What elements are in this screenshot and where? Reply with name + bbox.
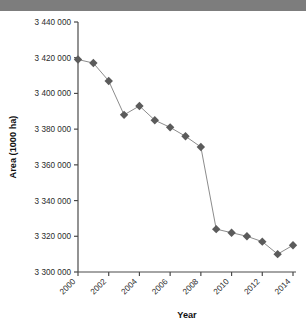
y-tick-label: 3 340 000	[35, 197, 72, 206]
data-point-marker	[212, 225, 220, 233]
y-axis-tick-group: 3 300 0003 320 0003 340 0003 360 0003 38…	[35, 18, 78, 277]
data-point-marker	[197, 143, 205, 151]
x-tick-label: 2006	[150, 277, 170, 297]
data-point-marker	[74, 55, 82, 63]
y-tick-label: 3 300 000	[35, 268, 72, 277]
x-tick-label: 2002	[89, 277, 109, 297]
y-tick-label: 3 400 000	[35, 89, 72, 98]
data-point-marker	[243, 232, 251, 240]
data-point-marker	[166, 123, 174, 131]
x-tick-label: 2008	[181, 277, 201, 297]
y-tick-label: 3 440 000	[35, 18, 72, 27]
y-tick-label: 3 360 000	[35, 161, 72, 170]
x-tick-label: 2014	[273, 277, 293, 297]
series-markers-area	[74, 55, 297, 258]
x-tick-label: 2000	[58, 277, 78, 297]
data-point-marker	[227, 229, 235, 237]
x-tick-label: 2012	[242, 277, 262, 297]
data-point-marker	[181, 132, 189, 140]
x-tick-label: 2010	[212, 277, 232, 297]
y-tick-label: 3 380 000	[35, 125, 72, 134]
line-chart-svg: 3 300 0003 320 0003 340 0003 360 0003 38…	[0, 11, 306, 324]
data-point-marker	[120, 111, 128, 119]
x-axis-label: Year	[177, 310, 197, 320]
y-tick-label: 3 420 000	[35, 54, 72, 63]
x-tick-label: 2004	[120, 277, 140, 297]
plot-area: 3 300 0003 320 0003 340 0003 360 0003 38…	[0, 11, 306, 324]
data-point-marker	[289, 241, 297, 249]
x-axis-tick-group: 20002002200420062008201020122014	[58, 272, 293, 296]
title-band-partial-text: · · ·	[22, 0, 51, 4]
y-tick-label: 3 320 000	[35, 232, 72, 241]
chart-figure: · · · 3 300 0003 320 0003 340 0003 360 0…	[0, 0, 306, 324]
series-line-area	[78, 60, 293, 255]
y-axis-label: Area (1000 ha)	[8, 116, 18, 179]
cropped-title-band: · · ·	[0, 0, 306, 11]
